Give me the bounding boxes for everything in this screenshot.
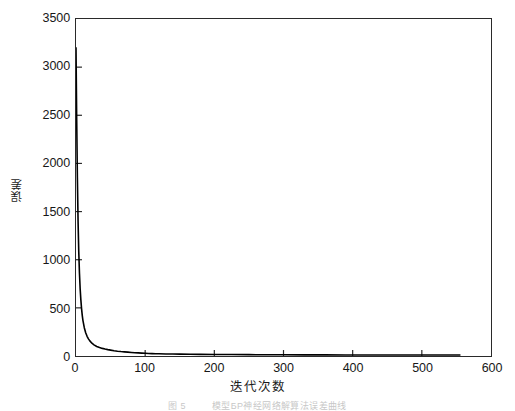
y-tick-label: 2500 <box>43 109 70 122</box>
y-tick-label: 1000 <box>43 254 70 267</box>
x-tick-label: 0 <box>72 362 79 375</box>
x-tick-label: 400 <box>343 362 364 375</box>
figure-caption-label: 图 5 <box>168 401 186 411</box>
error-curve <box>76 48 460 355</box>
y-tick-label: 2000 <box>43 157 70 170</box>
y-axis-title: 误差 <box>12 178 30 202</box>
y-tick-label: 500 <box>49 302 70 315</box>
axis-ticks <box>76 67 422 356</box>
figure-container: 0500100015002000250030003500 误差 01002003… <box>0 0 515 411</box>
y-axis-tick-labels: 0500100015002000250030003500 <box>0 0 70 411</box>
x-tick-label: 500 <box>412 362 433 375</box>
plot-area <box>75 18 492 357</box>
y-tick-label: 3000 <box>43 60 70 73</box>
x-tick-label: 600 <box>482 362 503 375</box>
y-tick-label: 1500 <box>43 205 70 218</box>
y-tick-label: 3500 <box>43 12 70 25</box>
x-axis-title: 迭代次数 <box>0 376 515 395</box>
figure-caption-text: 模型БР神经网络解算法误差曲线 <box>212 401 347 411</box>
x-tick-label: 100 <box>134 362 155 375</box>
figure-caption: 图 5模型БР神经网络解算法误差曲线 <box>0 399 515 411</box>
plot-svg <box>76 19 491 356</box>
x-tick-label: 200 <box>204 362 225 375</box>
x-tick-label: 300 <box>273 362 294 375</box>
